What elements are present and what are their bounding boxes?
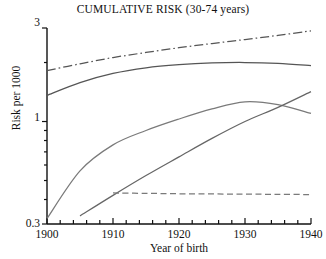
x-axis-ticks — [47, 218, 311, 224]
series-line-series-5-dashed-flat — [113, 193, 311, 195]
series-line-series-4-solid-lower — [80, 92, 311, 216]
series-line-series-2-solid-upper — [47, 62, 311, 95]
data-series-group — [47, 31, 311, 219]
y-axis-ticks — [42, 28, 47, 224]
series-line-series-3-solid-middle — [47, 102, 311, 219]
plot-area — [0, 0, 326, 259]
axis-lines — [47, 28, 311, 224]
chart-figure: CUMULATIVE RISK (30-74 years) Risk per 1… — [0, 0, 326, 259]
